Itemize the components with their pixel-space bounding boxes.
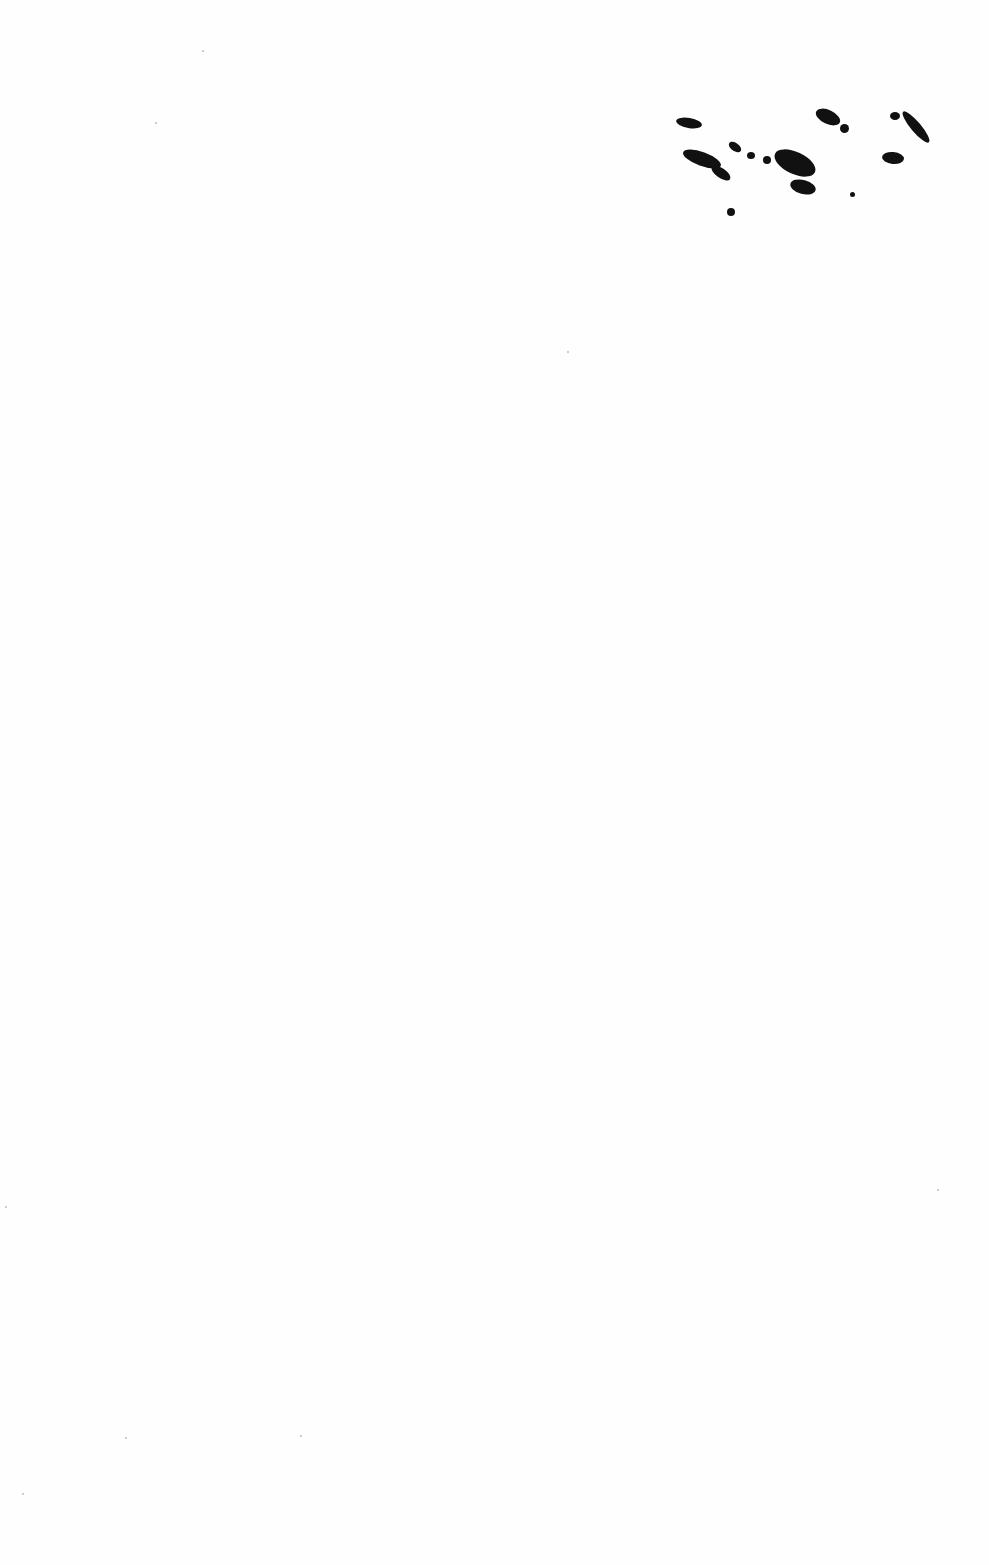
dust-speck [567,351,569,353]
dust-speck [202,50,204,52]
dust-speck [5,1206,7,1208]
ink-blot [899,108,932,145]
ink-blot [840,124,849,133]
ink-blot [789,177,818,197]
ink-blot [763,156,771,164]
dust-speck [155,122,157,124]
dust-speck [300,1435,302,1437]
ink-blot [770,144,819,183]
ink-blot [709,163,733,184]
ink-blot [890,112,900,120]
dust-speck [125,1437,127,1439]
ink-blot [727,140,743,155]
ink-blot [675,116,702,130]
ink-blot [882,151,905,165]
ink-blot [850,192,855,197]
dust-speck [937,1189,939,1191]
blank-scanned-page [0,0,989,1565]
ink-blot [727,208,735,216]
ink-blot [813,105,842,129]
dust-speck [22,1493,24,1495]
ink-blot [747,152,755,159]
